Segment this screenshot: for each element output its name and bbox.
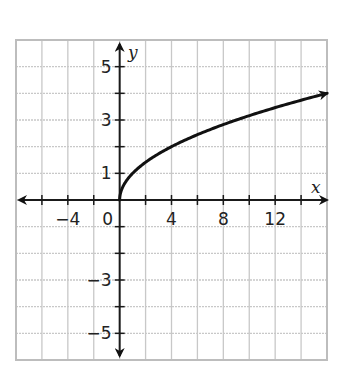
y-tick-label: 3 [101,110,112,130]
axes [19,44,327,356]
x-axis-label: x [311,177,321,197]
y-axis-label: y [127,42,138,62]
x-tick-label: −4 [55,209,80,229]
x-tick-label: 12 [264,209,286,229]
y-tick-label: −5 [87,323,112,343]
y-tick-label: 5 [101,57,112,77]
x-tick-label: 4 [166,209,177,229]
x-tick-label: 0 [102,209,113,229]
x-tick-label: 8 [218,209,229,229]
y-tick-label: 1 [101,163,112,183]
square-root-function-graph: −404812531−3−5 x y [0,0,345,378]
y-tick-label: −3 [87,270,112,290]
